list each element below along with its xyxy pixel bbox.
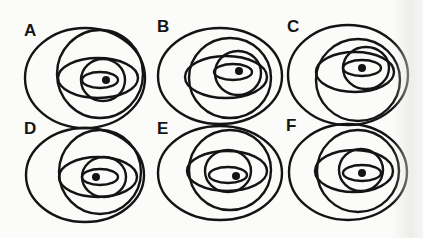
panel-label: C [287,17,299,36]
circle-ellipse [189,38,271,118]
panel-a: A [24,21,145,128]
center-dot [92,173,100,181]
circle-ellipse [317,130,399,212]
outer-ellipse [25,28,145,128]
nested-ellipses-diagram: ABCDEF [0,0,423,238]
center-dot [102,76,110,84]
small-ellipse [82,72,118,88]
center-dot [232,172,240,180]
panel-label: B [157,17,169,36]
center-dot [358,169,366,177]
panel-e: E [157,119,282,220]
small-ellipse [209,167,247,183]
center-dot [358,64,366,72]
wide-ellipse [187,151,267,191]
circle-ellipse [189,130,271,210]
panel-d: D [24,119,144,222]
panel-b: B [157,17,282,124]
outer-ellipse [158,28,282,124]
center-dot [235,67,243,75]
panel-label: D [24,119,36,138]
mid-circle-ellipse [82,157,126,197]
scan-edge-shading [393,0,423,238]
outer-ellipse [289,124,407,220]
panel-c: C [287,17,408,125]
outer-ellipse [158,126,282,220]
panel-label: F [286,116,296,135]
panel-label: A [24,21,36,40]
figure-canvas: ABCDEF [0,0,423,238]
circle-ellipse [59,130,141,214]
circle-ellipse [57,30,143,118]
panel-label: E [157,119,168,138]
small-ellipse [214,64,252,80]
panel-f: F [286,116,407,220]
